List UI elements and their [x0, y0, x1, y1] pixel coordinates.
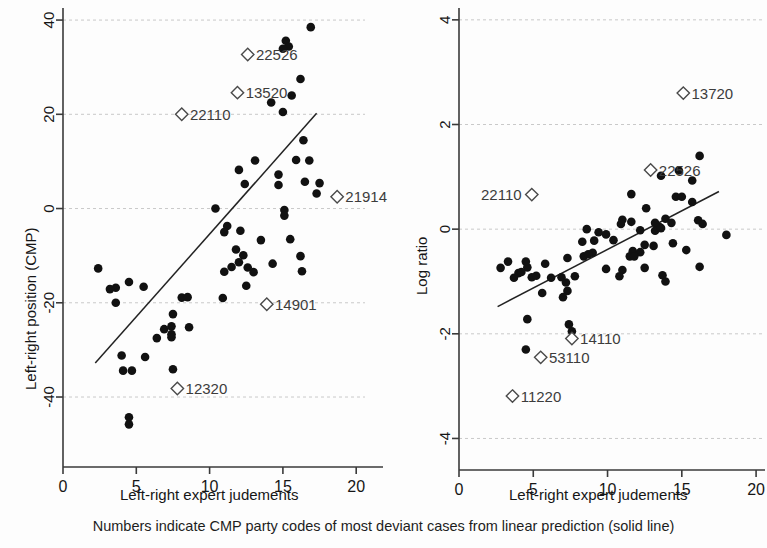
data-point	[286, 235, 295, 244]
data-point	[682, 246, 691, 255]
data-point	[111, 298, 120, 307]
data-point	[541, 259, 550, 268]
data-point	[153, 334, 162, 343]
data-point	[571, 272, 580, 281]
outlier-marker	[526, 188, 538, 200]
outlier-label: 12320	[186, 380, 228, 397]
data-point	[584, 250, 593, 259]
data-point	[609, 236, 618, 245]
data-point	[257, 236, 266, 245]
data-point	[559, 293, 568, 302]
chart-panel-right: -4-2024051015201372022526221101411053110…	[390, 0, 767, 510]
outlier-marker	[242, 48, 254, 60]
data-point	[125, 278, 134, 287]
data-point	[522, 257, 531, 266]
data-point	[167, 333, 176, 342]
data-point	[183, 293, 192, 302]
data-point	[218, 294, 227, 303]
outlier-label: 11220	[521, 388, 562, 405]
data-point	[315, 179, 324, 188]
x-tick-label: 20	[747, 481, 765, 498]
data-point	[602, 230, 611, 239]
data-point	[236, 226, 245, 235]
data-point	[532, 271, 541, 280]
outlier-marker	[534, 351, 546, 363]
data-point	[722, 231, 731, 240]
data-point	[287, 91, 296, 100]
outlier-marker	[231, 86, 243, 98]
data-point	[235, 258, 244, 267]
data-point	[301, 177, 310, 186]
data-point	[242, 282, 251, 291]
data-point	[504, 257, 513, 266]
x-tick-label: 20	[347, 478, 365, 495]
outlier-marker	[644, 164, 656, 176]
outlier-label: 13720	[692, 85, 734, 102]
data-point	[695, 263, 704, 272]
data-point	[563, 254, 572, 263]
outlier-marker	[171, 382, 183, 394]
data-point	[640, 241, 649, 250]
data-point	[106, 285, 115, 294]
data-point	[688, 198, 697, 207]
data-point	[117, 351, 126, 360]
data-point	[669, 239, 678, 248]
data-point	[615, 272, 624, 281]
data-point	[678, 192, 687, 201]
data-point	[139, 282, 148, 291]
data-point	[292, 156, 301, 165]
regression-line	[95, 113, 316, 363]
scatter-plot-right: -4-2024051015201372022526221101411053110…	[390, 0, 767, 510]
data-point	[296, 252, 305, 261]
chart-panel-left: -40-200204005101520225261352022110219141…	[0, 0, 390, 510]
data-point	[296, 75, 305, 84]
scatter-plot-left: -40-200204005101520225261352022110219141…	[0, 0, 390, 510]
data-point	[306, 23, 315, 32]
data-point	[141, 353, 150, 362]
data-point	[298, 267, 307, 276]
x-axis-title-left: Left-right expert judements	[120, 486, 298, 503]
outlier-marker	[331, 191, 343, 203]
data-point	[578, 237, 587, 246]
data-point	[538, 289, 547, 298]
data-point	[517, 268, 526, 277]
outlier-marker	[261, 298, 273, 310]
y-axis-title-left: Left-right position (CMP)	[22, 227, 39, 390]
y-tick-label: -2	[436, 327, 453, 340]
data-point	[547, 274, 556, 283]
data-point	[299, 136, 308, 145]
data-point	[220, 267, 229, 276]
data-point	[523, 315, 532, 324]
data-point	[496, 264, 505, 273]
outlier-label: 14110	[580, 330, 621, 347]
y-tick-label: 0	[436, 225, 453, 233]
outlier-marker	[677, 87, 689, 99]
y-axis-title-right: Log ratio	[413, 237, 430, 295]
figure-caption: Numbers indicate CMP party codes of most…	[0, 518, 767, 534]
x-tick-label: 0	[59, 478, 68, 495]
data-point	[94, 264, 103, 273]
data-point	[251, 156, 260, 165]
data-point	[667, 219, 676, 228]
data-point	[274, 181, 283, 190]
data-point	[125, 420, 134, 429]
data-point	[169, 310, 178, 319]
data-point	[590, 236, 599, 245]
data-point	[243, 263, 252, 272]
data-point	[279, 108, 288, 117]
data-point	[510, 274, 519, 283]
data-point	[657, 224, 666, 233]
data-point	[235, 166, 244, 175]
figure-container: -40-200204005101520225261352022110219141…	[0, 0, 767, 548]
data-point	[522, 345, 531, 354]
data-point	[627, 190, 636, 199]
x-axis-title-right: Left-right expert judements	[509, 486, 687, 503]
data-point	[167, 322, 176, 331]
data-point	[185, 323, 194, 332]
data-point	[617, 220, 626, 229]
outlier-label: 22526	[659, 162, 701, 179]
outlier-label: 22110	[481, 186, 522, 203]
data-point	[268, 259, 277, 268]
y-tick-label: 40	[40, 12, 57, 29]
y-tick-label: 0	[40, 204, 57, 212]
